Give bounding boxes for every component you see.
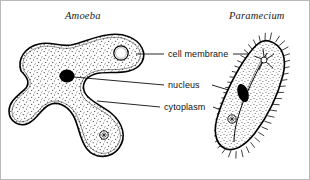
label-nucleus: nucleus bbox=[168, 80, 200, 90]
paramecium-contractile-vacuole-lower bbox=[228, 115, 236, 123]
label-cell-membrane: cell membrane bbox=[168, 49, 228, 59]
amoeba-food-vacuole bbox=[100, 131, 109, 140]
title-amoeba: Amoeba bbox=[65, 10, 101, 21]
amoeba-contractile-vacuole-inner bbox=[116, 48, 127, 59]
amoeba-nucleus bbox=[59, 70, 74, 83]
protozoa-diagram-figure: Amoeba Paramecium cell membrane nucleus … bbox=[0, 0, 310, 180]
title-paramecium: Paramecium bbox=[229, 10, 285, 21]
amoeba-organism bbox=[9, 34, 144, 156]
leader-nucleus-left bbox=[74, 77, 164, 85]
diagram-canvas bbox=[1, 1, 310, 180]
leader-cytoplasm-left bbox=[97, 101, 160, 107]
label-cytoplasm: cytoplasm bbox=[164, 102, 205, 112]
